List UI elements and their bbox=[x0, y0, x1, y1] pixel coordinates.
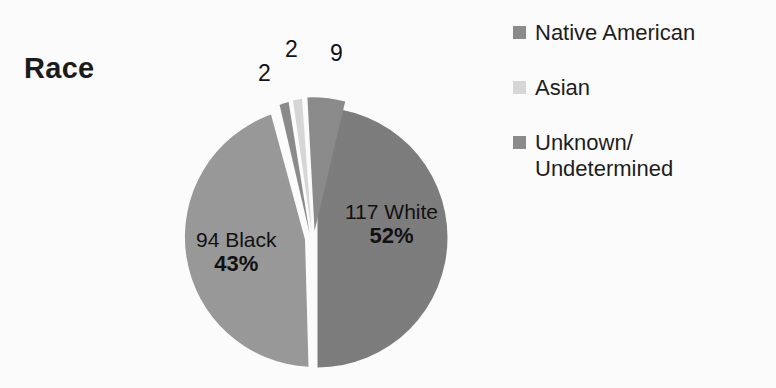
chart-page: Race 117 White 52% 94 Black 43% 2 2 9 bbox=[0, 0, 776, 388]
legend-swatch-icon-unknown-undetermined bbox=[513, 136, 526, 149]
pie-chart: 117 White 52% 94 Black 43% 2 2 9 bbox=[0, 0, 500, 388]
legend-item-unknown-undetermined[interactable]: Unknown/ Undetermined bbox=[513, 130, 771, 184]
legend-item-native-american[interactable]: Native American bbox=[513, 20, 771, 47]
legend-label-unknown-undetermined: Unknown/ Undetermined bbox=[535, 130, 673, 184]
slice-label-white: 117 White 52% bbox=[345, 200, 438, 248]
legend-label-native-american: Native American bbox=[535, 20, 695, 47]
legend-swatch-icon-native-american bbox=[513, 26, 526, 39]
slice-label-white-count: 117 White bbox=[345, 200, 438, 224]
slice-label-black: 94 Black 43% bbox=[196, 228, 277, 276]
legend: Native American Asian Unknown/ Undetermi… bbox=[513, 20, 771, 211]
slice-label-black-count: 94 Black bbox=[196, 228, 277, 252]
legend-swatch-icon-asian bbox=[513, 81, 526, 94]
legend-label-asian: Asian bbox=[535, 75, 590, 102]
slice-label-unknown-undetermined: 9 bbox=[330, 40, 343, 67]
slice-label-asian: 2 bbox=[285, 36, 298, 63]
slice-label-black-percent: 43% bbox=[196, 252, 277, 277]
legend-item-asian[interactable]: Asian bbox=[513, 75, 771, 102]
slice-label-native-american: 2 bbox=[258, 60, 271, 87]
pie-svg bbox=[0, 0, 500, 388]
slice-label-white-percent: 52% bbox=[345, 224, 438, 249]
